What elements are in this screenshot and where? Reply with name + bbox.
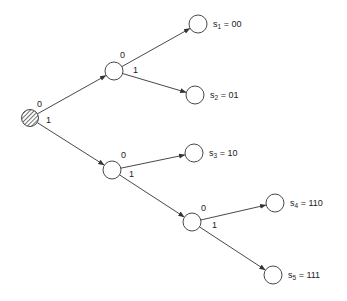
edge-root-n1 (37, 123, 104, 165)
edge-bit-label: 0 (121, 150, 126, 160)
edge-bit-label: 1 (212, 220, 217, 230)
code-tree-diagram: 01010101s1 = 00s2 = 01s3 = 10s4 = 110s5 … (0, 0, 347, 301)
edge-bit-label: 0 (201, 203, 206, 213)
root-node (22, 110, 39, 127)
edge-bit-label: 1 (46, 115, 51, 125)
edge-n0-s1 (122, 29, 190, 67)
leaf-node-s1 (189, 15, 207, 33)
edge-bit-label: 1 (133, 65, 138, 75)
edge-n0-s2 (123, 74, 186, 93)
internal-node-n11 (183, 213, 201, 231)
leaf-label-s2: s2 = 01 (210, 90, 238, 101)
leaf-label-s5: s5 = 111 (288, 270, 320, 281)
edge-n11-s5 (200, 227, 266, 270)
tree-svg: 01010101s1 = 00s2 = 01s3 = 10s4 = 110s5 … (0, 0, 347, 301)
nodes (22, 15, 285, 284)
internal-node-n1 (103, 161, 121, 179)
edge-root-n0 (37, 76, 105, 114)
leaf-node-s4 (266, 194, 284, 212)
leaf-node-s3 (185, 144, 203, 162)
internal-node-n0 (105, 62, 123, 80)
edge-n1-s3 (121, 155, 185, 168)
edge-n11-s4 (201, 205, 266, 220)
edge-bit-label: 0 (37, 99, 42, 109)
leaf-label-s3: s3 = 10 (209, 148, 237, 159)
leaf-label-s4: s4 = 110 (290, 198, 323, 209)
edge-bit-label: 0 (120, 50, 125, 60)
leaf-node-s5 (264, 266, 282, 284)
leaf-node-s2 (186, 86, 204, 104)
edge-bit-label: 1 (129, 169, 134, 179)
edge-n1-s4_parent (120, 175, 184, 217)
leaf-label-s1: s1 = 00 (213, 19, 241, 30)
